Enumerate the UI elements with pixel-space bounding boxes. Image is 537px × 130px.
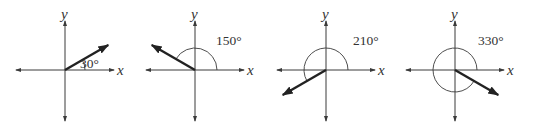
y-axis-label: y: [449, 6, 458, 22]
angle-label: 330°: [478, 33, 504, 48]
angle-arc: [176, 48, 217, 70]
x-axis-label: x: [246, 62, 254, 78]
panel-30-degrees: x y 30°: [16, 6, 124, 121]
angle-diagrams: x y 30° x y 150° x y 210° x y 330°: [0, 0, 537, 130]
angle-label: 30°: [80, 56, 99, 71]
y-axis-label: y: [189, 6, 198, 22]
panel-330-degrees: x y 330°: [406, 6, 514, 121]
y-axis-label: y: [59, 6, 68, 22]
x-axis-label: x: [377, 62, 385, 78]
x-axis-label: x: [506, 62, 514, 78]
panel-210-degrees: x y 210°: [277, 6, 385, 121]
x-axis-label: x: [116, 62, 124, 78]
y-axis-label: y: [320, 6, 329, 22]
angle-label: 150°: [216, 33, 242, 48]
angle-label: 210°: [353, 33, 379, 48]
panel-150-degrees: x y 150°: [146, 6, 254, 121]
